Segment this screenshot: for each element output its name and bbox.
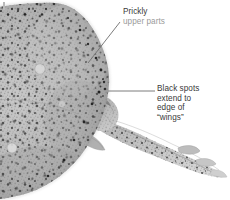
scapular-thorn-upper [35, 64, 45, 74]
pelvic-fin-region [80, 90, 128, 138]
first-dorsal-fin [178, 146, 200, 155]
second-dorsal-fin [196, 159, 216, 167]
callout-black-spots-line-4: “wings” [157, 113, 184, 122]
callout-black-spots: Black spotsextend toedge of“wings” [157, 84, 199, 122]
callout-black-spots-line-3: edge of [157, 103, 185, 112]
annotated-specimen-figure: Pricklyupper parts Black spotsextend toe… [0, 0, 230, 200]
disc-margin [0, 3, 109, 200]
caudal-fin [210, 170, 227, 177]
callout-black-spots-line-2: extend to [157, 94, 191, 103]
scapular-thorn-lower [7, 143, 17, 153]
leader-line-prickly [88, 22, 120, 63]
callout-prickly-upper-parts: Pricklyupper parts [123, 7, 165, 26]
callout-black-spots-line-1: Black spots [157, 84, 199, 93]
median-thorn [59, 101, 65, 107]
callout-prickly-line-2: upper parts [123, 17, 165, 26]
lower-pelvic-lobe [81, 132, 105, 150]
fin-base-shadow [95, 96, 111, 106]
marginal-black-spots [29, 17, 105, 187]
callout-prickly-line-1: Prickly [123, 7, 147, 16]
skate-disc [0, 0, 115, 200]
figure-crop-tick [3, 2, 5, 10]
